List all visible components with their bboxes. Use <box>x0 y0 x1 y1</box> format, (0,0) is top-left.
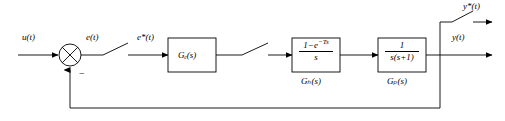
sampler-1-blade <box>103 43 128 55</box>
sampled-output-signal-label: y*(t) <box>463 2 480 11</box>
feedback-minus-sign: − <box>79 68 85 79</box>
block-diagram-canvas: u(t) e(t) − e*(t) Gₑ(s) 1−e−Ts s Gₕ(s) 1… <box>0 0 505 121</box>
sampled-error-label: e*(t) <box>137 33 154 42</box>
diagram-vector-layer <box>0 0 505 121</box>
error-signal-label: e(t) <box>86 33 99 42</box>
hold-denominator: s <box>296 52 336 62</box>
sampler-3-blade <box>452 11 473 22</box>
hold-block-under-label: Gₕ(s) <box>301 77 321 86</box>
plant-transfer-function: 1 s(s+1) <box>382 41 422 63</box>
plant-denominator: s(s+1) <box>382 52 422 62</box>
sampler-2-blade <box>242 43 268 55</box>
hold-numerator: 1−e−Ts <box>296 41 336 51</box>
hold-transfer-function: 1−e−Ts s <box>296 41 336 63</box>
plant-numerator: 1 <box>382 41 422 51</box>
controller-block-label: Gₑ(s) <box>178 51 196 60</box>
plant-block-under-label: Gₚ(s) <box>387 77 407 86</box>
input-signal-label: u(t) <box>22 33 35 42</box>
output-signal-label: y(t) <box>452 33 465 42</box>
hold-exponent: −Ts <box>318 38 329 46</box>
